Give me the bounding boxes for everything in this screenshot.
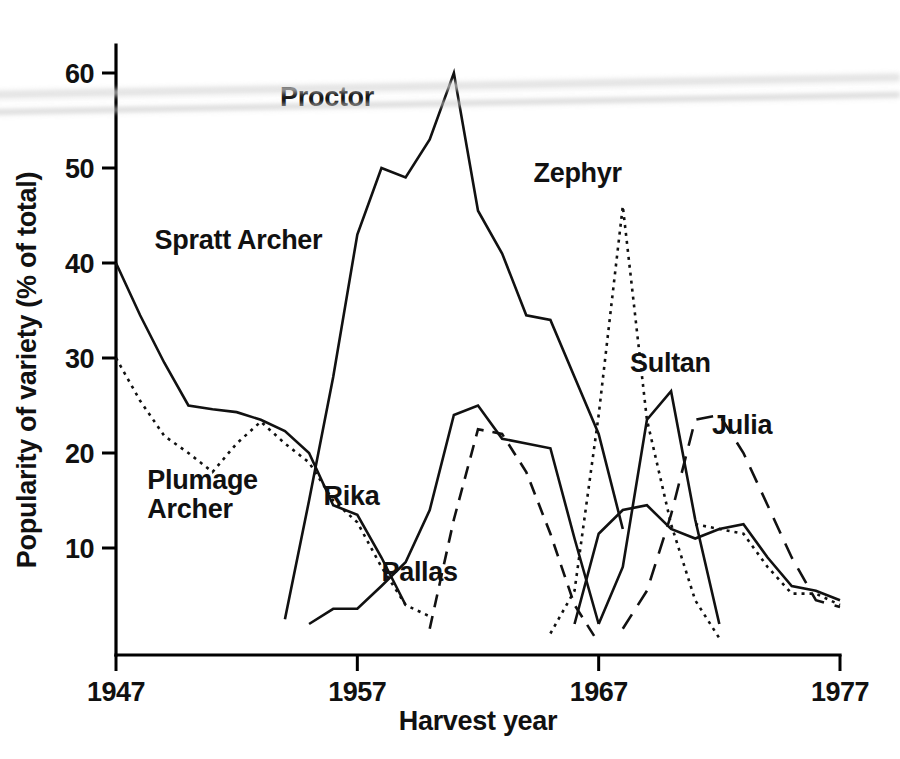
series-label-zephyr: Zephyr <box>534 158 623 188</box>
series-label-julia: Julia <box>712 410 773 440</box>
x-axis-ticks: 1947195719671977 <box>87 655 869 707</box>
y-tick-label: 10 <box>65 534 94 564</box>
x-tick-label: 1967 <box>570 677 628 707</box>
series-label-spratt-archer: Spratt Archer <box>155 225 323 255</box>
series-line-spratt-archer <box>116 263 406 605</box>
y-tick-label: 40 <box>65 249 94 279</box>
y-tick-label: 60 <box>65 59 94 89</box>
x-tick-label: 1977 <box>811 677 869 707</box>
series-line-other-a <box>575 505 840 624</box>
y-tick-label: 50 <box>65 154 94 184</box>
series-paths-group <box>116 73 840 643</box>
y-tick-label: 20 <box>65 439 94 469</box>
series-label-sultan: Sultan <box>630 348 711 378</box>
x-tick-label: 1957 <box>328 677 386 707</box>
series-line-proctor <box>285 73 623 619</box>
y-axis-ticks: 102030405060 <box>65 59 116 564</box>
y-tick-label: 30 <box>65 344 94 374</box>
x-axis-title: Harvest year <box>399 706 558 736</box>
series-label-rika: Rika <box>324 481 381 511</box>
series-line-julia <box>623 415 840 629</box>
series-line-zephyr <box>550 206 719 638</box>
series-label-pallas: Pallas <box>381 557 457 587</box>
series-label-proctor: Proctor <box>280 82 375 112</box>
series-label-plumage-archer: PlumageArcher <box>147 465 258 524</box>
y-axis-title: Popularity of variety (% of total) <box>12 172 42 568</box>
series-labels-group: Spratt ArcherPlumageArcherProctorRikaPal… <box>147 82 773 587</box>
x-tick-label: 1947 <box>87 677 145 707</box>
